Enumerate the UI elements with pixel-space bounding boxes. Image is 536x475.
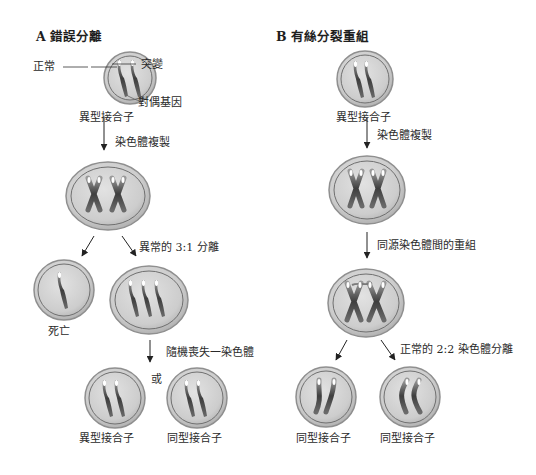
diagram-graphics	[0, 0, 536, 475]
label-recombination: 同源染色體間的重組	[377, 239, 476, 252]
arrow-b-left	[336, 340, 347, 360]
label-random-loss: 隨機喪失一染色體	[166, 346, 254, 359]
cell-a-replicated	[66, 162, 150, 230]
label-b-result-homo-1: 同型接合子	[296, 432, 351, 445]
label-a-result-hetero: 異型接合子	[79, 432, 134, 445]
cell-a-trisomic	[110, 266, 188, 334]
cell-b-result-homo-1	[296, 367, 356, 427]
cell-b-recombined	[328, 269, 404, 337]
cell-a-dead	[34, 260, 94, 320]
panel-a-title: A 錯誤分離	[36, 26, 102, 45]
label-b-start-cell: 異型接合子	[336, 111, 391, 124]
label-or: 或	[151, 373, 162, 386]
label-allele: 對偶基因	[138, 96, 182, 109]
label-a-replication: 染色體複製	[115, 136, 170, 149]
label-b-result-homo-2: 同型接合子	[380, 432, 435, 445]
arrow-b-right	[381, 340, 395, 360]
label-normal: 正常	[33, 60, 55, 73]
panel-b-title: B 有絲分裂重組	[276, 26, 369, 45]
cell-b-result-homo-2	[380, 367, 440, 427]
label-a-start-cell: 異型接合子	[79, 111, 134, 124]
label-abnormal-split: 異常的 3:1 分離	[139, 241, 219, 254]
cell-a-result-hetero	[85, 368, 145, 428]
label-death: 死亡	[48, 325, 70, 338]
cell-a-result-homo	[167, 368, 227, 428]
label-normal-split: 正常的 2:2 染色體分離	[400, 343, 513, 356]
arrow-a-right	[122, 236, 136, 256]
label-mutation: 突變	[141, 58, 163, 71]
cell-b-replicated	[329, 156, 405, 224]
label-b-replication: 染色體複製	[377, 129, 432, 142]
label-a-result-homo: 同型接合子	[167, 432, 222, 445]
arrow-a-left	[82, 236, 94, 256]
cell-b-start	[337, 51, 393, 107]
